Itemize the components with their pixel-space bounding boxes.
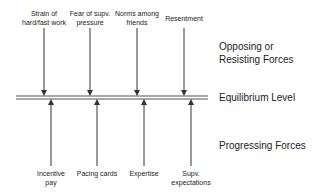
opposing-force-label: Norms among friends <box>115 10 159 27</box>
progressing-forces-heading: Progressing Forces <box>219 139 306 152</box>
equilibrium-line <box>16 96 208 99</box>
progressing-force-label: Supv. expectations <box>171 170 210 187</box>
opposing-forces-heading: Opposing or Resisting Forces <box>219 40 293 66</box>
progressing-force-label: Pacing cards <box>77 170 117 179</box>
force-field-diagram: Strain of hard/fast work Fear of supv. p… <box>0 0 324 195</box>
opposing-arrows <box>44 28 184 93</box>
progressing-force-label: Incentive pay <box>37 170 65 187</box>
progressing-force-label: Expertise <box>129 170 158 179</box>
progressing-arrows <box>51 102 191 166</box>
opposing-force-label: Strain of hard/fast work <box>22 10 66 27</box>
opposing-force-label: Resentment <box>165 15 203 24</box>
equilibrium-level-label: Equilibrium Level <box>219 91 295 104</box>
opposing-force-label: Fear of supv. pressure <box>70 10 110 27</box>
